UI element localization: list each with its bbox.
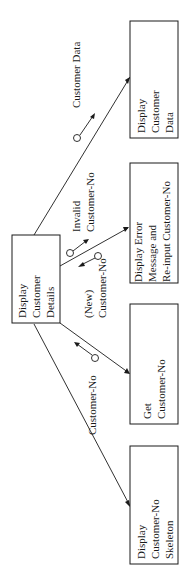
couple-new-customer-no: (New) Customer-No: [78, 253, 108, 319]
module-display-error: Display Error Message and Re-input Custo…: [130, 163, 178, 283]
connector-to-display-error: [60, 228, 128, 266]
arrowhead-icon: [90, 113, 95, 119]
connector-to-get-customer-no: [60, 323, 129, 373]
module-label: Details: [44, 287, 56, 318]
arrowhead-icon: [78, 262, 85, 267]
arrowhead-icon: [125, 500, 130, 507]
structure-chart: Display Customer Details Display Custome…: [0, 0, 191, 571]
couple-customer-data: Customer Data: [70, 42, 95, 142]
module-label: Customer-No: [149, 499, 161, 559]
module-label: Customer: [149, 90, 161, 133]
couple-label: Customer Data: [70, 42, 82, 108]
module-label: Message and: [146, 224, 158, 282]
data-couple-circle-icon: [67, 250, 74, 257]
module-display-customer-details: Display Customer Details: [12, 235, 60, 323]
module-label: Display Error: [132, 221, 144, 282]
couple-label: Invalid: [70, 200, 82, 232]
couple-label: Customer-No: [86, 375, 98, 435]
connector-to-display-customer-data: [34, 77, 130, 235]
connector-to-display-skeleton: [34, 324, 130, 506]
module-get-customer-no: Get Customer-No: [130, 304, 178, 424]
module-label: Data: [163, 112, 175, 133]
module-label: Get: [141, 403, 153, 419]
arrowhead-icon: [83, 239, 89, 244]
module-display-skeleton: Display Customer-No Skeleton: [130, 446, 178, 564]
arrowhead-icon: [74, 342, 80, 347]
data-couple-circle-icon: [92, 355, 99, 362]
arrowhead-icon: [124, 368, 130, 374]
module-display-customer-data: Display Customer Data: [130, 21, 178, 138]
couple-label: (New): [82, 290, 95, 318]
module-label: Display: [135, 524, 147, 559]
module-label: Display: [16, 283, 28, 318]
arrowhead-icon: [123, 227, 129, 232]
module-label: Customer-No: [155, 359, 167, 419]
module-label: Re-input Customer-No: [160, 181, 172, 282]
couple-label: Customer-No: [84, 172, 96, 232]
module-label: Skeleton: [163, 520, 175, 559]
couple-customer-no: Customer-No: [74, 342, 99, 435]
data-couple-circle-icon: [74, 135, 81, 142]
couple-invalid-customer-no: Invalid Customer-No: [67, 172, 97, 257]
arrowhead-icon: [125, 77, 130, 84]
module-label: Display: [135, 98, 147, 133]
couple-label: Customer-No: [96, 258, 108, 318]
module-label: Customer: [30, 275, 42, 318]
